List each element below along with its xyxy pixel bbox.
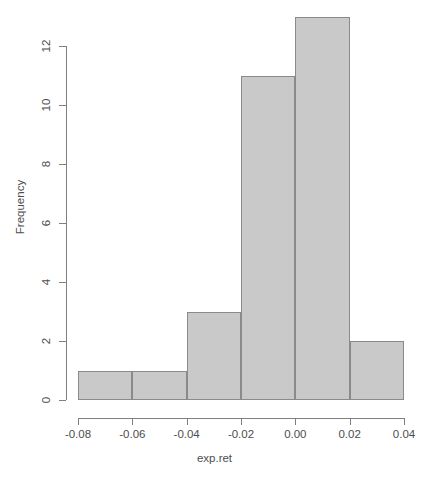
y-axis-tick-label-wrap: 10 xyxy=(36,98,56,112)
y-axis-title: Frequency xyxy=(14,147,26,267)
plot-area xyxy=(78,10,404,400)
histogram-bar xyxy=(132,371,186,401)
y-axis-tick-label: 0 xyxy=(39,397,53,403)
y-axis-tick-label-wrap: 12 xyxy=(36,39,56,53)
y-axis-tick-label: 4 xyxy=(39,279,53,285)
y-axis-tick-label: 6 xyxy=(39,220,53,226)
y-axis-tick-label: 2 xyxy=(39,338,53,344)
histogram-bar xyxy=(78,371,132,401)
x-axis-tick-label: 0.02 xyxy=(320,428,380,440)
x-axis-tick xyxy=(404,418,405,425)
histogram-bar xyxy=(241,76,295,401)
y-axis-tick xyxy=(59,223,66,224)
histogram-plot: 024681012 Frequency -0.08-0.06-0.04-0.02… xyxy=(0,0,429,482)
y-axis-tick xyxy=(59,341,66,342)
x-axis-tick-label: 0.00 xyxy=(265,428,325,440)
y-axis-tick-label: 8 xyxy=(39,161,53,167)
y-axis-tick xyxy=(59,164,66,165)
x-axis-tick-label: -0.08 xyxy=(48,428,108,440)
y-axis-tick-label-wrap: 8 xyxy=(36,157,56,171)
y-axis-tick-label-wrap: 6 xyxy=(36,216,56,230)
x-axis-tick xyxy=(295,418,296,425)
x-axis-tick xyxy=(241,418,242,425)
y-axis-tick xyxy=(59,46,66,47)
histogram-bar xyxy=(295,17,349,401)
x-axis-tick xyxy=(78,418,79,425)
y-axis-tick-label: 12 xyxy=(39,40,53,53)
y-axis-line xyxy=(66,46,67,400)
x-axis-tick-label: 0.04 xyxy=(374,428,429,440)
y-axis-tick-label-wrap: 2 xyxy=(36,334,56,348)
y-axis-tick xyxy=(59,400,66,401)
y-axis-tick-label-wrap: 0 xyxy=(36,393,56,407)
y-axis-tick xyxy=(59,105,66,106)
histogram-bar xyxy=(350,341,404,400)
y-axis-tick xyxy=(59,282,66,283)
y-axis-tick-label: 10 xyxy=(39,99,53,112)
x-axis-tick xyxy=(132,418,133,425)
y-axis-tick-label-wrap: 4 xyxy=(36,275,56,289)
x-axis-tick xyxy=(187,418,188,425)
x-axis-tick-label: -0.02 xyxy=(211,428,271,440)
histogram-bar xyxy=(187,312,241,401)
x-axis-tick-label: -0.04 xyxy=(157,428,217,440)
x-axis-tick xyxy=(350,418,351,425)
x-axis-tick-label: -0.06 xyxy=(102,428,162,440)
x-axis-title: exp.ret xyxy=(0,452,429,464)
